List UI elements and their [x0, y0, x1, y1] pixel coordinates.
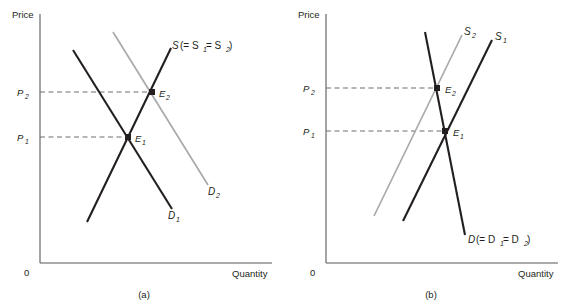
- curve-label-demand-2-sub-a: 2: [215, 192, 220, 199]
- equilibrium-dot-e2-b: [434, 85, 440, 91]
- equilibrium-label-e1-sub-a: 1: [142, 139, 146, 146]
- y-tick-p1-a: P: [17, 132, 24, 143]
- curve-label-demand-paren-b: (= D: [476, 234, 495, 245]
- panel-caption-a: (a): [138, 289, 150, 300]
- equilibrium-dot-e2-a: [149, 89, 155, 95]
- equilibrium-dot-e1-a: [125, 134, 131, 140]
- curve-label-supply-paren-a: (= S: [180, 40, 199, 51]
- y-tick-p2-sub-b: 2: [310, 89, 315, 96]
- y-tick-p2-a: P: [17, 87, 24, 98]
- curve-label-demand-2-a: D: [208, 186, 215, 197]
- equilibrium-label-e1-a: E: [135, 133, 142, 144]
- panel-caption-b: (b): [425, 289, 437, 300]
- x-axis-label-a: Quantity: [232, 268, 268, 279]
- curve-demand-1-a: [73, 50, 172, 209]
- equilibrium-label-e1-b: E: [453, 127, 460, 138]
- curve-label-supply-2-b: S: [464, 26, 471, 37]
- curve-label-supply-mid-a: = S: [206, 40, 222, 51]
- panel-b-plot: Price Quantity 0 P 2 P 1 E 2 E 1 D (= D …: [290, 0, 573, 304]
- curve-label-demand-mid-b: = D: [503, 234, 519, 245]
- y-axis-label-b: Price: [298, 9, 320, 20]
- supply-demand-figure: Price Quantity 0 P 2 P 1 E 2 E 1 S (= S …: [0, 0, 573, 304]
- y-tick-p1-sub-a: 1: [25, 138, 29, 145]
- panel-a: Price Quantity 0 P 2 P 1 E 2 E 1 S (= S …: [0, 0, 290, 304]
- curve-label-supply-a: S: [172, 40, 179, 51]
- curve-label-supply-1-b: S: [495, 31, 502, 42]
- equilibrium-label-e1-sub-b: 1: [460, 133, 464, 140]
- y-tick-p2-sub-a: 2: [24, 93, 29, 100]
- x-axis-label-b: Quantity: [518, 268, 554, 279]
- equilibrium-label-e2-b: E: [445, 84, 452, 95]
- panel-a-plot: Price Quantity 0 P 2 P 1 E 2 E 1 S (= S …: [0, 0, 290, 304]
- curve-label-demand-b: D: [468, 234, 475, 245]
- curve-label-supply-1-sub-b: 1: [503, 37, 507, 44]
- y-tick-p2-b: P: [303, 83, 310, 94]
- curve-label-supply-close-a: ): [229, 40, 232, 51]
- curve-label-supply-2-sub-b: 2: [471, 32, 476, 39]
- y-tick-p1-b: P: [303, 126, 310, 137]
- equilibrium-label-e2-sub-b: 2: [451, 90, 456, 97]
- equilibrium-dot-e1-b: [442, 128, 448, 134]
- origin-label-a: 0: [24, 267, 29, 278]
- equilibrium-label-e2-a: E: [159, 88, 166, 99]
- curve-label-demand-close-b: ): [527, 234, 530, 245]
- y-tick-p1-sub-b: 1: [311, 132, 315, 139]
- curve-label-demand-1-sub-a: 1: [176, 216, 180, 223]
- y-axis-label-a: Price: [12, 9, 34, 20]
- panel-b: Price Quantity 0 P 2 P 1 E 2 E 1 D (= D …: [290, 0, 573, 304]
- equilibrium-label-e2-sub-a: 2: [165, 94, 170, 101]
- curve-label-demand-1-a: D: [168, 210, 175, 221]
- origin-label-b: 0: [310, 267, 315, 278]
- curve-demand-2-a: [113, 32, 208, 185]
